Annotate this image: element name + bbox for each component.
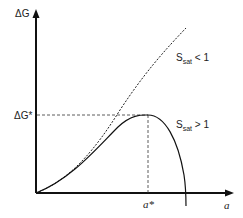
y-axis-label: ΔG [15,8,29,19]
ssat-gt-1-label: Ssat > 1 [176,119,209,132]
x-axis-label: a [224,199,230,211]
curve-ssat-lt-1 [36,28,186,193]
diagram-canvas [0,0,243,218]
ssat-lt-1-label: Ssat < 1 [176,52,209,65]
dg-star-label: ΔG* [14,110,32,121]
y-axis-arrow-icon [33,9,40,18]
a-star-label: a* [143,198,154,210]
x-axis-arrow-icon [225,190,234,197]
